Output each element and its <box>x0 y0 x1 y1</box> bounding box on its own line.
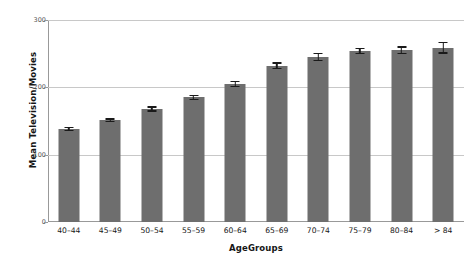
error-bar <box>189 95 198 100</box>
bar-chart: Mean Television/Movies 0100200300 40–444… <box>0 0 469 273</box>
bar-slot <box>256 20 298 222</box>
error-bar-cap-top <box>147 106 156 107</box>
error-bar <box>106 118 115 122</box>
bar[interactable] <box>391 50 412 222</box>
error-bar <box>147 106 156 111</box>
error-bar-cap-bottom <box>355 53 364 54</box>
plot-area <box>48 20 464 222</box>
error-bar-cap-bottom <box>272 68 281 69</box>
y-tick-label: 300 <box>20 17 46 24</box>
error-bar <box>439 42 448 54</box>
error-bar-cap-bottom <box>147 110 156 111</box>
error-bar <box>355 48 364 55</box>
error-bar-cap-bottom <box>439 52 448 53</box>
x-tick-label: 70–74 <box>307 226 330 235</box>
x-tick-label: 55–59 <box>182 226 205 235</box>
error-bar-cap-bottom <box>314 60 323 61</box>
y-tick-label: 0 <box>20 219 46 226</box>
bar[interactable] <box>183 97 204 222</box>
bars-layer <box>48 20 464 222</box>
bar[interactable] <box>225 84 246 222</box>
bar-slot <box>298 20 340 222</box>
x-tick-label: 50–54 <box>140 226 163 235</box>
bar[interactable] <box>266 66 287 222</box>
x-tick-label: 40–44 <box>57 226 80 235</box>
error-bar-cap-top <box>189 95 198 96</box>
x-axis-tick-labels: 40–4445–4950–5455–5960–6465–6970–7475–79… <box>48 226 464 240</box>
error-bar-cap-top <box>355 48 364 49</box>
x-tick-label: 80–84 <box>390 226 413 235</box>
error-bar-cap-top <box>64 127 73 128</box>
error-bar <box>397 46 406 54</box>
bar[interactable] <box>58 129 79 222</box>
error-bar-cap-top <box>231 81 240 82</box>
bar[interactable] <box>308 57 329 222</box>
bar[interactable] <box>349 51 370 222</box>
error-bar-cap-bottom <box>64 130 73 131</box>
bar-slot <box>381 20 423 222</box>
error-bar-cap-top <box>106 118 115 119</box>
bar-slot <box>173 20 215 222</box>
bar[interactable] <box>100 120 121 222</box>
y-tick-label: 100 <box>20 152 46 159</box>
y-tick-label: 200 <box>20 84 46 91</box>
bar-slot <box>339 20 381 222</box>
y-axis-tick-labels: 0100200300 <box>12 0 46 273</box>
error-bar-cap-bottom <box>106 121 115 122</box>
x-tick-label: > 84 <box>434 226 452 235</box>
bar-slot <box>90 20 132 222</box>
bar[interactable] <box>141 109 162 222</box>
error-bar <box>64 127 73 131</box>
error-bar-cap-bottom <box>189 99 198 100</box>
error-bar-cap-top <box>439 42 448 43</box>
bar[interactable] <box>433 48 454 222</box>
error-bar <box>314 53 323 61</box>
error-bar-cap-top <box>314 53 323 54</box>
bar-slot <box>214 20 256 222</box>
bar-slot <box>131 20 173 222</box>
x-tick-label: 45–49 <box>99 226 122 235</box>
bar-slot <box>422 20 464 222</box>
x-tick-label: 60–64 <box>224 226 247 235</box>
x-tick-label: 65–69 <box>265 226 288 235</box>
x-tick-label: 75–79 <box>348 226 371 235</box>
error-bar-cap-top <box>272 62 281 63</box>
bar-slot <box>48 20 90 222</box>
error-bar-cap-bottom <box>231 86 240 87</box>
y-tick-mark <box>44 222 48 223</box>
error-bar-cap-bottom <box>397 53 406 54</box>
error-bar-cap-top <box>397 46 406 47</box>
x-axis-title: AgeGroups <box>48 243 464 253</box>
error-bar <box>272 62 281 69</box>
error-bar <box>231 81 240 88</box>
